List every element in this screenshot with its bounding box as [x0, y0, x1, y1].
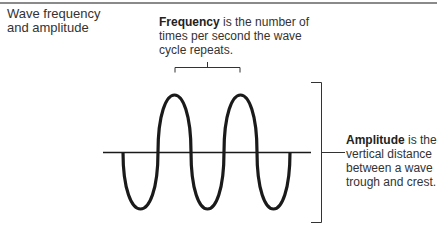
- amplitude-bracket: [311, 83, 345, 223]
- wave-diagram: [0, 0, 437, 227]
- frequency-bracket: [175, 62, 240, 73]
